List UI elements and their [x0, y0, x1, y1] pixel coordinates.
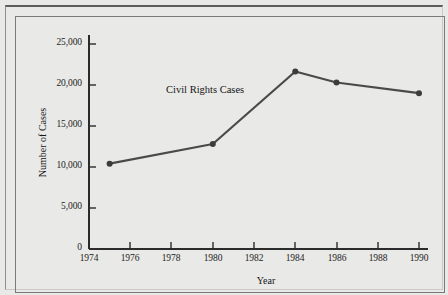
x-tick-label-1984: 1984: [275, 253, 315, 263]
figure-outer-frame: 0 5,000 10,000 15,000 20,000 25,000 1974…: [5, 5, 443, 290]
x-tick-label-1990: 1990: [399, 253, 439, 263]
x-tick-label-1978: 1978: [151, 253, 191, 263]
x-tick-label-1980: 1980: [193, 253, 233, 263]
series-line-civil-rights-cases: [110, 72, 419, 164]
data-point-1990: [416, 90, 422, 96]
y-tick-label-0: 0: [30, 242, 82, 252]
data-point-1984: [292, 69, 298, 75]
series-markers: [107, 69, 422, 167]
data-point-1980: [210, 141, 216, 147]
chart-figure: 0 5,000 10,000 15,000 20,000 25,000 1974…: [0, 0, 448, 295]
x-tick-label-1976: 1976: [110, 253, 150, 263]
series-annotation-label: Civil Rights Cases: [166, 84, 244, 95]
y-tick-label-25000: 25,000: [30, 37, 82, 47]
y-tick-label-20000: 20,000: [30, 78, 82, 88]
y-axis-title: Number of Cases: [37, 93, 48, 193]
x-tick-label-1974: 1974: [69, 253, 109, 263]
x-tick-label-1982: 1982: [234, 253, 274, 263]
x-tick-label-1988: 1988: [358, 253, 398, 263]
x-axis-title: Year: [216, 275, 316, 286]
x-tick-label-1986: 1986: [317, 253, 357, 263]
figure-inner-border: 0 5,000 10,000 15,000 20,000 25,000 1974…: [15, 16, 445, 293]
y-tick-label-5000: 5,000: [30, 201, 82, 211]
data-point-1975: [107, 161, 113, 167]
data-point-1986: [334, 80, 340, 86]
